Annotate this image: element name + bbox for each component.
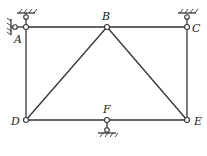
node-C (185, 25, 190, 30)
node-F (105, 118, 110, 123)
label-E: E (193, 115, 202, 128)
member-BD (26, 27, 107, 120)
label-C: C (192, 22, 201, 35)
member-BE (107, 27, 187, 120)
truss-diagram: A B C D F E (0, 0, 207, 156)
node-A (24, 25, 29, 30)
node-D (24, 118, 29, 123)
label-B: B (101, 10, 110, 23)
label-D: D (10, 115, 20, 128)
node-B (105, 25, 110, 30)
label-F: F (102, 103, 111, 116)
label-A: A (13, 33, 22, 46)
node-E (185, 118, 190, 123)
